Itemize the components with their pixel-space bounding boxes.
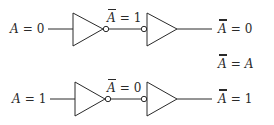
bottom-not-gate-2: [147, 82, 177, 116]
bottom-gate-1-output-bubble: [105, 96, 110, 101]
bottom-not-gate-1: [75, 82, 105, 116]
top-gate-2-input-bubble: [141, 26, 146, 31]
identity-label: A=A: [218, 57, 253, 71]
top-output-label: A=0: [218, 22, 252, 36]
top-gate-1-output-bubble: [103, 26, 108, 31]
top-middle-label: A=1: [107, 11, 141, 25]
top-input-label: A=0: [10, 22, 44, 36]
top-not-gate-1: [73, 13, 103, 46]
top-not-gate-2: [147, 13, 177, 46]
bottom-gate-2-input-bubble: [141, 96, 146, 101]
bottom-output-label: A=1: [218, 92, 252, 106]
bottom-input-label: A=1: [12, 92, 46, 106]
bottom-middle-label: A=0: [107, 81, 141, 95]
